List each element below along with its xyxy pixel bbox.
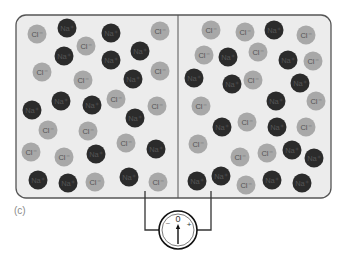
sodium-ion: Na⁺: [126, 109, 145, 128]
sodium-ion: Na⁺: [120, 168, 139, 187]
sodium-ion: Na⁺: [124, 70, 143, 89]
ion-label: Na⁺: [57, 52, 71, 61]
ion-label: Cl⁻: [205, 26, 216, 35]
ion-label: Na⁺: [133, 47, 147, 56]
chloride-ion: Cl⁻: [192, 97, 211, 116]
ion-label: Cl⁻: [154, 67, 165, 76]
sodium-ion: Na⁺: [29, 171, 48, 190]
ion-label: Cl⁻: [300, 31, 311, 40]
chloride-ion: Cl⁻: [28, 25, 47, 44]
ion-label: Cl⁻: [151, 102, 162, 111]
chloride-ion: Cl⁻: [304, 52, 323, 71]
chloride-ion: Cl⁻: [236, 23, 255, 42]
chloride-ion: Cl⁻: [297, 118, 316, 137]
ion-label: Na⁺: [293, 79, 307, 88]
ion-label: Na⁺: [281, 56, 295, 65]
sodium-ion: Na⁺: [59, 174, 78, 193]
ion-label: Cl⁻: [234, 153, 245, 162]
ion-label: Cl⁻: [77, 76, 88, 85]
meter-minus-label: −: [166, 219, 171, 228]
ion-label: Cl⁻: [252, 48, 263, 57]
chloride-ion: Cl⁻: [107, 90, 126, 109]
sodium-ion: Na⁺: [279, 51, 298, 70]
ion-label: Cl⁻: [152, 178, 163, 187]
ion-label: Cl⁻: [300, 123, 311, 132]
chloride-ion: Cl⁻: [149, 173, 168, 192]
ion-label: Na⁺: [295, 179, 309, 188]
chloride-ion: Cl⁻: [74, 71, 93, 90]
sodium-ion: Na⁺: [102, 24, 121, 43]
ion-label: Na⁺: [265, 176, 279, 185]
ion-label: Cl⁻: [310, 97, 321, 106]
chloride-ion: Cl⁻: [258, 144, 277, 163]
ion-label: Cl⁻: [195, 102, 206, 111]
ion-label: Na⁺: [215, 123, 229, 132]
sodium-ion: Na⁺: [219, 48, 238, 67]
ion-label: Cl⁻: [42, 126, 53, 135]
chloride-ion: Cl⁻: [202, 21, 221, 40]
ion-label: Cl⁻: [80, 42, 91, 51]
ion-label: Na⁺: [85, 101, 99, 110]
ion-label: Na⁺: [190, 177, 204, 186]
ion-label: Na⁺: [214, 172, 228, 181]
ion-label: Cl⁻: [36, 68, 47, 77]
sodium-ion: Na⁺: [305, 149, 324, 168]
sodium-ion: Na⁺: [23, 101, 42, 120]
sodium-ion: Na⁺: [265, 21, 284, 40]
chloride-ion: Cl⁻: [244, 71, 263, 90]
ion-label: Cl⁻: [192, 140, 203, 149]
chloride-ion: Cl⁻: [148, 97, 167, 116]
ion-label: Na⁺: [104, 29, 118, 38]
ion-label: Na⁺: [126, 75, 140, 84]
sodium-ion: Na⁺: [213, 118, 232, 137]
ion-label: Na⁺: [60, 24, 74, 33]
ion-label: Cl⁻: [89, 178, 100, 187]
ion-label: Na⁺: [267, 26, 281, 35]
ion-label: Cl⁻: [82, 127, 93, 136]
chloride-ion: Cl⁻: [307, 92, 326, 111]
chloride-ion: Cl⁻: [195, 46, 214, 65]
chloride-ion: Cl⁻: [151, 22, 170, 41]
ion-label: Na⁺: [221, 53, 235, 62]
sodium-ion: Na⁺: [58, 19, 77, 38]
sodium-ion: Na⁺: [83, 96, 102, 115]
chloride-ion: Cl⁻: [86, 173, 105, 192]
ion-label: Na⁺: [270, 123, 284, 132]
electrochemistry-diagram: Cl⁻Na⁺Na⁺Cl⁻Cl⁻Na⁺Na⁺Na⁺Cl⁻Cl⁻Na⁺Cl⁻Na⁺N…: [0, 0, 351, 255]
ion-label: Cl⁻: [239, 28, 250, 37]
sodium-ion: Na⁺: [87, 145, 106, 164]
sodium-ion: Na⁺: [147, 140, 166, 159]
sodium-ion: Na⁺: [291, 74, 310, 93]
chloride-ion: Cl⁻: [79, 122, 98, 141]
chloride-ion: Cl⁻: [77, 37, 96, 56]
ion-label: Na⁺: [187, 74, 201, 83]
panel-label: (c): [14, 205, 26, 216]
chloride-ion: Cl⁻: [231, 148, 250, 167]
ion-label: Na⁺: [25, 106, 39, 115]
sodium-ion: Na⁺: [212, 167, 231, 186]
ion-label: Na⁺: [285, 146, 299, 155]
ion-label: Na⁺: [122, 173, 136, 182]
sodium-ion: Na⁺: [188, 172, 207, 191]
chloride-ion: Cl⁻: [39, 121, 58, 140]
ion-label: Cl⁻: [110, 95, 121, 104]
sodium-ion: Na⁺: [293, 174, 312, 193]
diagram-canvas: Cl⁻Na⁺Na⁺Cl⁻Cl⁻Na⁺Na⁺Na⁺Cl⁻Cl⁻Na⁺Cl⁻Na⁺N…: [0, 0, 351, 255]
ion-label: Na⁺: [225, 80, 239, 89]
ion-label: Cl⁻: [261, 149, 272, 158]
ion-label: Cl⁻: [31, 30, 42, 39]
chloride-ion: Cl⁻: [22, 143, 41, 162]
ion-label: Cl⁻: [58, 153, 69, 162]
voltmeter: 0−+: [159, 211, 197, 249]
sodium-ion: Na⁺: [131, 42, 150, 61]
chloride-ion: Cl⁻: [151, 62, 170, 81]
chloride-ion: Cl⁻: [117, 134, 136, 153]
chloride-ion: Cl⁻: [297, 26, 316, 45]
ion-label: Na⁺: [31, 176, 45, 185]
ion-label: Cl⁻: [154, 27, 165, 36]
sodium-ion: Na⁺: [102, 51, 121, 70]
ion-label: Cl⁻: [25, 148, 36, 157]
sodium-ion: Na⁺: [185, 69, 204, 88]
ion-label: Na⁺: [128, 114, 142, 123]
ion-label: Na⁺: [269, 97, 283, 106]
